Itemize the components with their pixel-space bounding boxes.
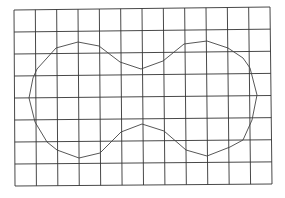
grid — [14, 7, 272, 186]
grid-diagram — [0, 0, 285, 198]
